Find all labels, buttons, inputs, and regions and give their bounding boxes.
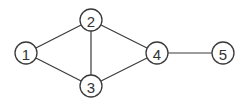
node-3: 3 — [80, 75, 102, 97]
edges-group — [26, 20, 223, 86]
node-label: 4 — [153, 46, 161, 63]
graph-diagram: 12345 — [0, 0, 245, 105]
node-1: 1 — [15, 42, 37, 64]
node-4: 4 — [146, 42, 168, 64]
node-label: 3 — [87, 79, 95, 96]
node-5: 5 — [212, 42, 234, 64]
node-label: 5 — [219, 46, 227, 63]
node-label: 1 — [22, 46, 30, 63]
node-label: 2 — [87, 13, 95, 30]
node-2: 2 — [80, 9, 102, 31]
